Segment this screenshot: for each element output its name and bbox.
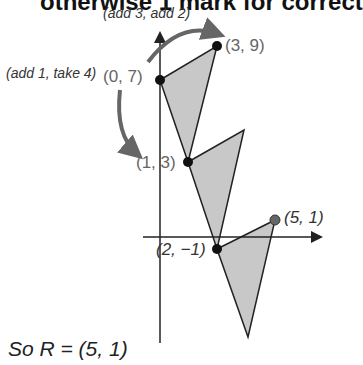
label-0-7: (0, 7) [103,67,143,87]
label-1-3: (1, 3) [136,153,176,173]
answer-text: So R = (5, 1) [8,337,128,361]
label-2-neg1: (2, −1) [156,240,206,260]
point-3-9 [212,41,222,51]
point-2-neg1 [212,244,222,254]
label-5-1: (5, 1) [284,208,324,228]
triangle-1 [160,46,217,162]
label-3-9: (3, 9) [225,36,265,56]
arrow-left-label: (add 1, take 4) [6,65,96,81]
point-5-1 [270,215,280,225]
point-1-3 [183,157,193,167]
arrow-add1-take4 [119,90,137,154]
triangle-2 [188,130,244,249]
arrow-top-label: (add 3, add 2) [103,5,190,21]
point-0-7 [155,75,165,85]
